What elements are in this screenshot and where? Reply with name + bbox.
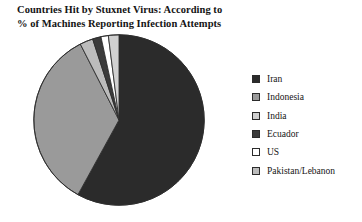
pie-chart-figure: Countries Hit by Stuxnet Virus: Accordin…	[0, 0, 362, 222]
pie-chart-plot-area	[30, 31, 208, 209]
legend-item[interactable]: Iran	[252, 70, 360, 88]
legend-item[interactable]: Pakistan/Lebanon	[252, 161, 360, 179]
legend-item-label: US	[267, 147, 279, 157]
legend-item-label: India	[267, 111, 287, 121]
legend-item[interactable]: Indonesia	[252, 88, 360, 106]
legend-item-label: Pakistan/Lebanon	[267, 166, 335, 176]
legend-item-label: Ecuador	[267, 129, 299, 139]
legend-item[interactable]: India	[252, 107, 360, 125]
chart-title: Countries Hit by Stuxnet Virus: Accordin…	[17, 3, 232, 30]
legend-swatch-icon	[252, 148, 260, 156]
legend-item[interactable]: US	[252, 143, 360, 161]
legend-swatch-icon	[252, 93, 260, 101]
pie-slice-group	[34, 35, 204, 205]
legend-item-label: Indonesia	[267, 92, 304, 102]
pie-svg	[30, 31, 208, 209]
legend-swatch-icon	[252, 112, 260, 120]
legend-swatch-icon	[252, 75, 260, 83]
legend-item-label: Iran	[267, 74, 282, 84]
chart-legend: IranIndonesiaIndiaEcuadorUSPakistan/Leba…	[252, 70, 360, 180]
legend-item[interactable]: Ecuador	[252, 125, 360, 143]
legend-swatch-icon	[252, 167, 260, 175]
legend-swatch-icon	[252, 130, 260, 138]
